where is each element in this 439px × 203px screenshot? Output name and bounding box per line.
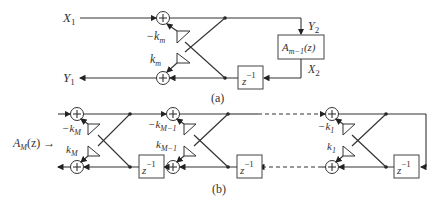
diagram-a: X1 Y2 Am−1(z) X2 z−1 Y1 [62,10,324,105]
caption-b: (b) [212,182,226,196]
coef-bottom-stage-M: kM [66,143,79,158]
x1-label: X1 [62,10,75,27]
diagram-b: AM(z) → z−1 z−1 [12,108,426,197]
y2-label: Y2 [308,19,319,35]
coef-top-a: −km [146,29,165,45]
coef-bottom-stage-1: k1 [327,140,336,155]
y1-label: Y1 [63,70,75,87]
coef-top-stage-1: −k1 [318,120,334,135]
lattice-diagram: X1 Y2 Am−1(z) X2 z−1 Y1 [0,0,439,203]
coef-bottom-stage-M-1: kM−1 [156,138,177,153]
gain-bottom-a [177,53,190,63]
gain-top-a [177,31,190,43]
adder-top-a [157,12,170,25]
transfer-label: AM(z) → [12,136,55,152]
caption-a: (a) [211,91,224,105]
coef-bottom-a: km [150,52,161,68]
coef-top-stage-M: −kM [62,122,82,137]
x2-label: X2 [307,62,320,78]
adder-bottom-a [157,72,170,85]
